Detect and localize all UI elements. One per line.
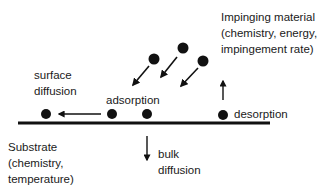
adsorption-label: adsorption — [106, 92, 160, 108]
adsorbed-atom — [142, 109, 152, 119]
impinging-arrow-icon — [181, 68, 198, 86]
impinging-particle — [198, 56, 209, 67]
impinging-particle — [149, 54, 160, 65]
impinging-material-label: Impinging material (chemistry, energy, i… — [221, 9, 317, 57]
impinging-particle — [178, 43, 189, 54]
desorbing-atom — [218, 110, 228, 120]
surface-diffusion-label: surface diffusion — [34, 67, 77, 99]
surface-diffused-atom — [41, 109, 51, 119]
adsorbed-atom — [107, 109, 117, 119]
desorption-label: desorption — [234, 106, 288, 122]
substrate-label: Substrate (chemistry, temperature) — [8, 139, 74, 187]
bulk-diffusion-label: bulk diffusion — [158, 146, 201, 178]
impinging-arrow-icon — [161, 57, 177, 77]
impinging-arrow-icon — [133, 66, 149, 85]
